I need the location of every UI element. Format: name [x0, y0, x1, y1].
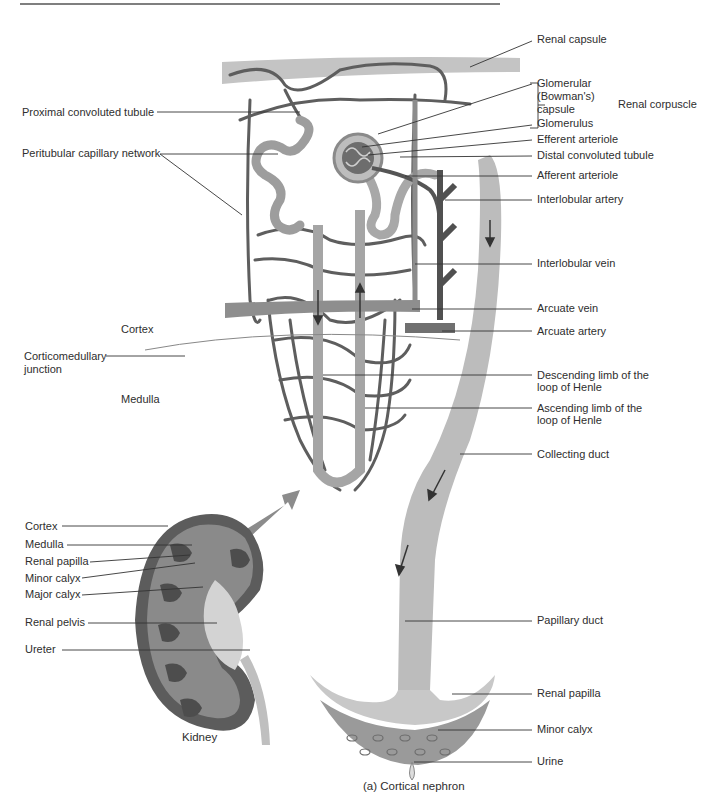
- glomerulus: [334, 134, 382, 182]
- zoom-arrow: [245, 490, 300, 537]
- kidney-label-renal-pelvis: Renal pelvis: [25, 616, 85, 629]
- arcuate-artery-block: [405, 323, 455, 333]
- label-renal-capsule: Renal capsule: [537, 33, 607, 46]
- interlobular-artery-vessel: [440, 170, 455, 320]
- kidney-caption: Kidney: [182, 731, 217, 744]
- label-efferent-arteriole: Efferent arteriole: [537, 133, 618, 146]
- label-corticomedullary-line2: junction: [24, 363, 62, 376]
- figure-caption: (a) Cortical nephron: [363, 780, 465, 793]
- label-glomerular-capsule-line3: capsule: [537, 103, 575, 116]
- kidney-illustration: [135, 514, 270, 745]
- label-urine: Urine: [537, 755, 563, 768]
- distal-convoluted-tubule: [370, 173, 435, 235]
- label-arcuate-vein: Arcuate vein: [537, 302, 598, 315]
- proximal-convoluted-tubule: [256, 120, 309, 230]
- nephron-diagram-artwork: [0, 0, 712, 800]
- kidney-label-ureter: Ureter: [25, 643, 56, 656]
- capillary-network: [230, 64, 470, 490]
- kidney-label-cortex: Cortex: [25, 520, 57, 533]
- kidney-label-renal-papilla: Renal papilla: [25, 555, 89, 568]
- label-peritubular-capillary-network: Peritubular capillary network: [22, 147, 160, 160]
- label-papillary-duct: Papillary duct: [537, 614, 603, 627]
- label-medulla-region: Medulla: [121, 393, 160, 406]
- label-renal-papilla: Renal papilla: [537, 687, 601, 700]
- label-descending-limb-line2: loop of Henle: [537, 381, 602, 394]
- label-renal-corpuscle: Renal corpuscle: [618, 98, 697, 111]
- label-proximal-convoluted-tubule: Proximal convoluted tubule: [22, 106, 154, 119]
- label-glomerular-capsule-line2: (Bowman's): [537, 90, 595, 103]
- label-glomerular-capsule-line1: Glomerular: [537, 77, 591, 90]
- kidney-label-medulla: Medulla: [25, 538, 64, 551]
- label-corticomedullary-line1: Corticomedullary: [24, 350, 107, 363]
- label-glomerulus: Glomerulus: [537, 117, 593, 130]
- kidney-label-minor-calyx: Minor calyx: [25, 572, 81, 585]
- label-minor-calyx: Minor calyx: [537, 723, 593, 736]
- papilla-cup: [310, 675, 495, 780]
- label-arcuate-artery: Arcuate artery: [537, 325, 606, 338]
- label-cortex-region: Cortex: [121, 323, 153, 336]
- label-distal-convoluted-tubule: Distal convoluted tubule: [537, 149, 654, 162]
- kidney-label-major-calyx: Major calyx: [25, 588, 81, 601]
- label-ascending-limb-line2: loop of Henle: [537, 414, 602, 427]
- label-interlobular-vein: Interlobular vein: [537, 257, 615, 270]
- label-interlobular-artery: Interlobular artery: [537, 193, 623, 206]
- label-afferent-arteriole: Afferent arteriole: [537, 169, 618, 182]
- label-collecting-duct: Collecting duct: [537, 448, 609, 461]
